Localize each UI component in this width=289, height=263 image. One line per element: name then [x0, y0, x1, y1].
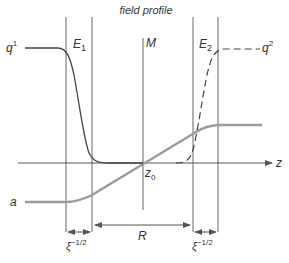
q1-label: q1	[6, 39, 18, 55]
m-label: M	[146, 36, 156, 50]
a-label: a	[10, 195, 17, 209]
diagram-canvas: field profile q1 q2 E1 E2	[0, 0, 289, 263]
xi-left-label: ξ−1/2	[66, 238, 87, 253]
z0-label: z0	[144, 166, 156, 182]
e2-label: E2	[199, 37, 212, 53]
q1-curve	[25, 48, 143, 163]
xi-right-label: ξ−1/2	[192, 238, 213, 253]
e1-label: E1	[73, 37, 86, 53]
z-axis-label: z	[275, 156, 282, 170]
field-profile-diagram: field profile q1 q2 E1 E2	[0, 0, 289, 263]
r-label: R	[138, 229, 147, 243]
q2-label: q2	[262, 39, 274, 55]
diagram-title: field profile	[119, 4, 172, 16]
